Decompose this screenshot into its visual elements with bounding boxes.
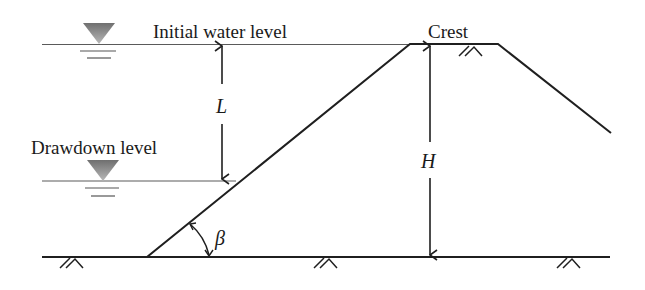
drawdown-level-label: Drawdown level xyxy=(31,138,157,157)
crest-label: Crest xyxy=(428,22,468,41)
initial-water-level-label: Initial water level xyxy=(153,22,287,41)
slope-angle-label: β xyxy=(215,228,225,248)
ground-hatch-icon xyxy=(60,258,580,268)
water-level-icon-drawdown xyxy=(85,160,119,196)
water-level-icon-initial xyxy=(80,23,116,58)
embankment-outline xyxy=(147,44,611,257)
crest-hatch-icon xyxy=(459,46,482,56)
embankment-diagram: Initial water level Crest Drawdown level… xyxy=(0,0,645,290)
height-label: H xyxy=(421,151,435,171)
drawdown-depth-label: L xyxy=(216,96,227,116)
